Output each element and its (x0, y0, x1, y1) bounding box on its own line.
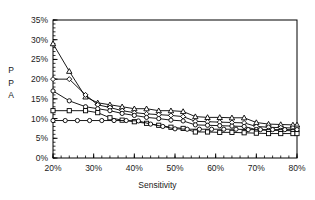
x-axis-tick-label: 70% (236, 164, 276, 173)
data-point-marker (124, 118, 128, 122)
data-point-marker (169, 118, 173, 122)
x-axis-label: Sensitivity (0, 180, 315, 190)
data-point-marker (67, 69, 72, 74)
x-axis-tick-label: 60% (196, 164, 236, 173)
data-point-marker (149, 122, 153, 126)
data-point-marker (230, 130, 234, 134)
data-point-marker (230, 124, 234, 128)
x-axis-tick-label: 80% (277, 164, 315, 173)
data-point-marker (271, 128, 275, 132)
data-point-marker (51, 89, 55, 93)
data-point-marker (88, 118, 92, 122)
data-point-marker (266, 131, 270, 135)
data-point-marker (205, 123, 209, 127)
data-point-marker (242, 124, 246, 128)
data-point-marker (83, 109, 87, 113)
data-point-marker (51, 118, 55, 122)
data-point-marker (96, 111, 100, 115)
series-1 (50, 41, 299, 127)
data-point-marker (258, 128, 262, 132)
data-point-marker (283, 128, 287, 132)
series-2 (51, 77, 300, 131)
data-point-marker (75, 118, 79, 122)
x-axis-tick-label: 50% (155, 164, 195, 173)
data-point-marker (108, 109, 112, 113)
data-point-marker (181, 119, 185, 123)
data-point-marker (193, 130, 197, 134)
data-point-marker (291, 131, 295, 135)
data-point-marker (218, 124, 222, 128)
data-point-marker (51, 77, 56, 82)
x-axis-tick-label: 40% (114, 164, 154, 173)
data-point-marker (254, 131, 258, 135)
data-point-marker (185, 127, 189, 131)
data-point-marker (173, 127, 177, 131)
data-point-marker (205, 130, 209, 134)
data-point-marker (181, 126, 185, 130)
data-point-marker (67, 99, 71, 103)
data-point-marker (100, 118, 104, 122)
data-point-marker (157, 116, 161, 120)
data-point-marker (144, 115, 148, 119)
data-point-marker (197, 127, 201, 131)
chart-figure: P P A 0%5%10%15%20%25%30%35% 20%30%40%50… (0, 0, 315, 200)
data-point-marker (222, 127, 226, 131)
x-axis-tick-label: 30% (74, 164, 114, 173)
data-point-marker (234, 127, 238, 131)
data-point-marker (295, 128, 299, 132)
data-point-marker (218, 130, 222, 134)
data-point-marker (181, 114, 186, 119)
x-axis-tick-label: 20% (33, 164, 73, 173)
data-point-marker (132, 113, 136, 117)
data-point-marker (136, 119, 140, 123)
data-point-marker (246, 128, 250, 132)
data-point-marker (193, 123, 197, 127)
data-point-marker (112, 118, 116, 122)
data-point-marker (67, 109, 71, 113)
data-point-marker (210, 127, 214, 131)
data-point-marker (161, 124, 165, 128)
data-point-marker (63, 118, 67, 122)
plot-frame (53, 20, 297, 158)
data-point-marker (132, 120, 136, 124)
data-point-marker (168, 113, 173, 118)
data-point-marker (279, 131, 283, 135)
data-point-marker (51, 109, 55, 113)
data-point-marker (242, 131, 246, 135)
data-point-marker (108, 116, 112, 120)
series-line (53, 44, 297, 125)
data-point-marker (120, 111, 124, 115)
